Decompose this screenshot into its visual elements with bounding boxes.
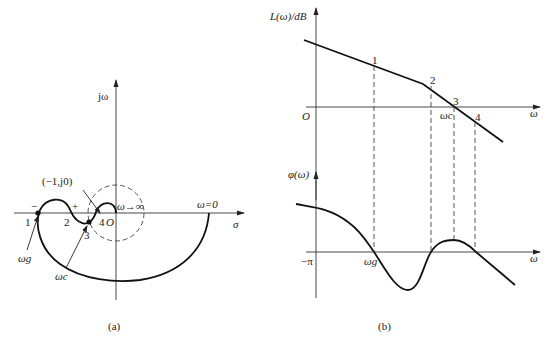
magnitude-y-label: L(ω)/dB: [269, 10, 307, 23]
figure: jω σ O (−1,j0) ω→∞ ω=0 − + 1 2 3 4 ωg ωc…: [0, 0, 551, 352]
point-2-label: 2: [64, 216, 70, 228]
mag-point-3: 3: [453, 95, 459, 107]
phase-x-label: ω: [530, 252, 538, 264]
point-3-marker: [86, 219, 91, 224]
phase-ref-label: −π: [301, 255, 313, 267]
mag-point-4: 4: [475, 111, 481, 123]
critical-point-label: (−1,j0): [42, 175, 73, 188]
bode-plots: L(ω)/dB O ω 1 2 3 4 ωc φ(ω) −π ω ωg (b): [269, 8, 540, 333]
phase-omega-g-label: ωg: [364, 255, 378, 267]
point-4-label: 4: [99, 216, 105, 228]
phase-curve: [296, 204, 515, 290]
point-1-label: 1: [25, 216, 31, 228]
caption-a: (a): [108, 320, 121, 333]
mag-point-2: 2: [430, 74, 436, 86]
caption-b: (b): [378, 320, 391, 333]
phase-y-label: φ(ω): [288, 168, 310, 181]
omega-inf-label: ω→∞: [117, 200, 144, 212]
point-3-label: 3: [84, 229, 90, 241]
omega-c-label: ωc: [55, 270, 68, 282]
omega-zero-label: ω=0: [197, 198, 218, 210]
minus-sign: −: [31, 200, 37, 212]
omega-g-label: ωg: [18, 252, 32, 264]
critical-point-pointer: [83, 190, 100, 213]
imag-axis-label: jω: [97, 90, 108, 102]
magnitude-x-label: ω: [530, 107, 538, 119]
nyquist-plot: jω σ O (−1,j0) ω→∞ ω=0 − + 1 2 3 4 ωg ωc…: [14, 80, 244, 333]
origin-label: O: [106, 216, 114, 228]
real-axis-label: σ: [233, 218, 239, 230]
magnitude-curve: [304, 40, 503, 142]
mag-omega-c-label: ωc: [440, 109, 453, 121]
magnitude-origin-label: O: [302, 110, 310, 122]
mag-point-1: 1: [372, 54, 378, 66]
plus-sign: +: [72, 200, 78, 212]
